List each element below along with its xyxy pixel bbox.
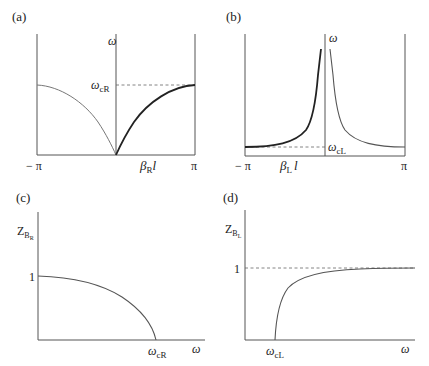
panel-b-y-label: ω xyxy=(329,31,337,45)
panel-a-y-label: ω xyxy=(108,34,116,48)
panel-a-xtick-pos-pi: π xyxy=(191,159,197,173)
panel-a-cutoff-label: ωcR xyxy=(91,78,109,94)
panel-d: (d) ZBL 1 ωcL ω xyxy=(223,190,415,360)
panel-d-impedance-curve xyxy=(275,268,415,340)
panel-c-impedance-curve xyxy=(38,276,156,340)
panel-b-cutoff-label: ωcL xyxy=(328,140,346,156)
panel-d-xtick-cutoff: ωcL xyxy=(266,344,284,360)
panel-b: (b) ω ωcL − π π βLl xyxy=(226,9,407,175)
panel-c: (c) ZBR 1 ωcR ω xyxy=(16,190,205,360)
panel-b-xtick-neg-pi: − π xyxy=(235,159,251,173)
panel-c-x-label: ω xyxy=(192,342,200,356)
figure-canvas: (a) ω ωcR − π π βRl (b) ω xyxy=(0,0,429,366)
panel-b-tag: (b) xyxy=(226,9,241,24)
panel-d-ytick-one: 1 xyxy=(234,262,240,276)
panel-d-tag: (d) xyxy=(223,190,238,205)
panel-c-tag: (c) xyxy=(16,190,30,205)
panel-c-ytick-one: 1 xyxy=(29,270,35,284)
panel-a-right-branch-curve xyxy=(116,85,195,155)
panel-a-left-branch-curve xyxy=(37,85,116,155)
panel-a: (a) ω ωcR − π π βRl xyxy=(12,9,197,175)
panel-a-xtick-neg-pi: − π xyxy=(26,159,42,173)
panel-c-y-label: ZBR xyxy=(17,224,34,241)
panel-b-right-branch-curve xyxy=(330,49,405,147)
panel-d-y-label: ZBL xyxy=(225,222,242,239)
panel-c-xtick-cutoff: ωcR xyxy=(148,344,166,360)
panel-b-left-branch-curve xyxy=(245,49,321,147)
panel-b-x-label: βLl xyxy=(279,158,298,175)
panel-b-xtick-pos-pi: π xyxy=(401,159,407,173)
panel-d-x-label: ω xyxy=(401,342,409,356)
panel-a-tag: (a) xyxy=(12,9,26,24)
panel-a-x-label: βRl xyxy=(139,158,157,175)
